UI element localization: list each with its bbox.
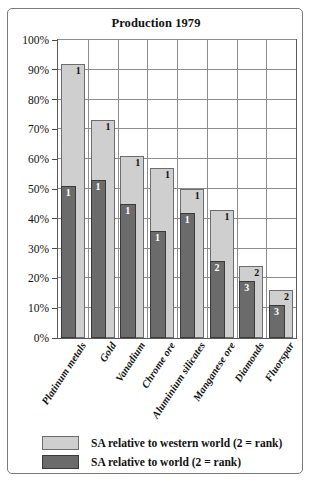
x-axis-category-label: Fluorspar (263, 340, 297, 383)
y-axis-tick-label: 70% (28, 122, 49, 136)
y-axis-tick-label: 40% (28, 212, 49, 226)
bar-rank-label: 3 (244, 283, 249, 293)
x-axis-category-label: Gold (97, 340, 118, 364)
chart-figure: Production 1979 0%10%20%30%40%50%60%70%8… (7, 8, 303, 474)
bar-group[interactable]: 23 (237, 40, 267, 338)
y-axis-tick: 10% (28, 301, 57, 315)
x-axis-labels: Platinum metalsGoldVanadiumChrome oreAlu… (57, 340, 297, 426)
y-axis-tick: 80% (28, 93, 57, 107)
x-axis-category-label: Aluminium silicates (150, 340, 207, 420)
bar-world[interactable] (61, 186, 76, 338)
plot-area: 1111111111122323 (57, 39, 297, 339)
legend-item[interactable]: SA relative to western world (2 = rank) (42, 433, 292, 452)
bar-group[interactable]: 23 (266, 40, 296, 338)
page-title: Production 1979 (111, 16, 200, 31)
bar-world[interactable] (120, 204, 135, 338)
y-axis-tick: 20% (28, 271, 57, 285)
bar-rank-label: 1 (155, 233, 160, 243)
y-axis-tick: 0% (34, 331, 57, 345)
bar-rank-label: 2 (284, 292, 289, 302)
bar-rank-label: 2 (254, 268, 259, 278)
chart-legend: SA relative to western world (2 = rank)S… (42, 433, 292, 471)
y-axis-tick: 30% (28, 242, 57, 256)
plot-inner: 1111111111122323 (58, 40, 296, 338)
bar-group[interactable]: 11 (118, 40, 148, 338)
y-axis-tick-label: 0% (34, 331, 49, 345)
bar-rank-label: 1 (195, 191, 200, 201)
bar-group[interactable]: 12 (207, 40, 237, 338)
bar-group[interactable]: 11 (147, 40, 177, 338)
y-axis-tick-label: 10% (28, 301, 49, 315)
bar-world[interactable] (180, 213, 195, 338)
x-axis-category-label: Platinum metals (39, 340, 88, 407)
y-axis-tick-label: 30% (28, 242, 49, 256)
bar-rank-label: 2 (214, 263, 219, 273)
y-axis-tick-label: 20% (28, 271, 49, 285)
y-axis-tick-label: 50% (28, 182, 49, 196)
y-axis-tick-label: 100% (22, 33, 49, 47)
bar-rank-label: 1 (165, 170, 170, 180)
y-axis-tick: 90% (28, 63, 57, 77)
bar-rank-label: 1 (95, 182, 100, 192)
bar-rank-label: 1 (106, 122, 111, 132)
y-axis-tick-label: 80% (28, 93, 49, 107)
bar-group[interactable]: 11 (58, 40, 88, 338)
y-axis-tick: 50% (28, 182, 57, 196)
legend-label: SA relative to western world (2 = rank) (91, 437, 282, 449)
bar-rank-label: 1 (125, 206, 130, 216)
y-axis-tick: 70% (28, 122, 57, 136)
bar-rank-label: 1 (66, 188, 71, 198)
bar-rank-label: 1 (76, 66, 81, 76)
bar-world[interactable] (150, 231, 165, 338)
bar-group[interactable]: 11 (177, 40, 207, 338)
legend-swatch (42, 436, 79, 450)
bar-rank-label: 3 (274, 307, 279, 317)
y-axis-tick-label: 60% (28, 152, 49, 166)
bar-group[interactable]: 11 (88, 40, 118, 338)
chart-title-bar: Production 1979 (16, 13, 296, 33)
bar-world[interactable] (91, 180, 106, 338)
legend-label: SA relative to world (2 = rank) (91, 456, 241, 468)
bar-rank-label: 1 (225, 212, 230, 222)
legend-item[interactable]: SA relative to world (2 = rank) (42, 452, 292, 471)
y-axis-tick: 60% (28, 152, 57, 166)
bar-rank-label: 1 (135, 158, 140, 168)
y-axis: 0%10%20%30%40%50%60%70%80%90%100% (8, 39, 57, 339)
y-axis-tick: 100% (22, 33, 57, 47)
y-axis-tick-label: 90% (28, 63, 49, 77)
y-axis-tick: 40% (28, 212, 57, 226)
bar-rank-label: 1 (185, 215, 190, 225)
legend-swatch (42, 455, 79, 469)
